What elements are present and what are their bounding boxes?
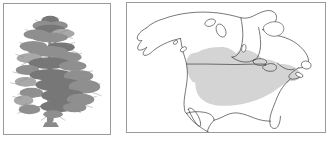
tree-illustration-svg (4, 4, 110, 134)
island-newfoundland (300, 60, 312, 70)
tree-crown-lower (14, 69, 100, 118)
island-banks (204, 18, 217, 28)
figure-root (0, 0, 334, 142)
species-distribution-range (186, 47, 300, 106)
outline-mexico-east (207, 120, 214, 132)
island-vancouver (179, 46, 187, 53)
tree-illustration-panel (3, 3, 111, 135)
distribution-map-panel (126, 2, 326, 133)
outline-gulf-coast (214, 113, 270, 121)
island-victoria (214, 22, 228, 38)
outline-baja-california (188, 108, 200, 126)
island-baffin (264, 22, 284, 37)
tree-crown-upper (24, 16, 75, 43)
north-america-map-svg (127, 3, 325, 132)
outline-mexico-west (186, 113, 208, 132)
tree-root-flare (43, 122, 59, 127)
